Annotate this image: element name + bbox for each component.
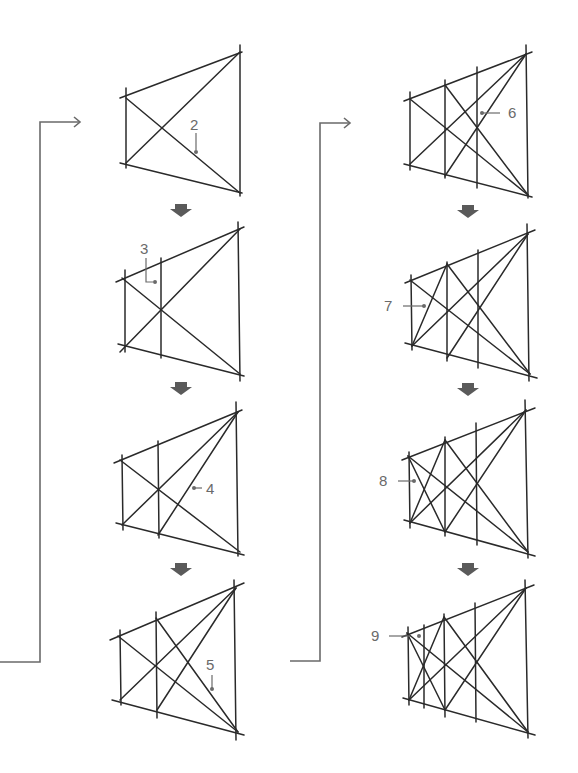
step-label-3: 3: [140, 241, 148, 256]
panel-step-6: [404, 45, 532, 198]
panel-step-7: [403, 224, 537, 381]
step-label-7: 7: [384, 298, 392, 313]
down-arrow-icon: [170, 204, 192, 217]
panel-step-8: [398, 400, 535, 558]
step-label-6: 6: [508, 105, 516, 120]
step-label-5: 5: [206, 657, 214, 672]
panel-step-2: [120, 45, 242, 196]
panel-step-3: [116, 222, 244, 381]
panel-step-9: [389, 580, 535, 738]
step-label-2: 2: [190, 117, 198, 132]
continuation-arrow-into-col1: [0, 117, 80, 662]
panel-step-4: [114, 402, 244, 556]
diagram-canvas: [0, 0, 578, 773]
down-arrow-icon: [170, 382, 192, 395]
down-arrow-icon: [457, 205, 479, 218]
panel-step-5: [110, 580, 244, 740]
down-arrow-icon: [457, 563, 479, 576]
continuation-arrow-col1-to-col2: [290, 118, 350, 661]
down-arrow-icon: [170, 563, 192, 576]
step-label-9: 9: [371, 628, 379, 643]
step-label-8: 8: [379, 473, 387, 488]
step-label-4: 4: [206, 481, 214, 496]
down-arrow-icon: [457, 383, 479, 396]
